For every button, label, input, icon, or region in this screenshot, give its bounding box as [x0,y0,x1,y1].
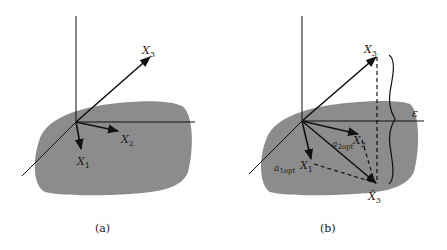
label-x3hat-b: X̂3 [367,190,381,205]
panel-a: X3 X2 X1 (a) [22,16,195,235]
label-epsilon-b: ε [412,107,418,120]
panel-b: X3 X̂3 ε a2opt X2 a1opt X1 (b) [249,16,424,235]
subspace-plane-a [35,101,192,195]
label-x3-b: X3 [363,43,377,58]
caption-b: (b) [320,222,336,235]
label-x3-a: X3 [141,44,155,59]
figure-canvas: X3 X2 X1 (a) X3 X̂3 ε a2opt X2 a1opt X1 … [0,0,447,250]
caption-a: (a) [95,222,110,235]
